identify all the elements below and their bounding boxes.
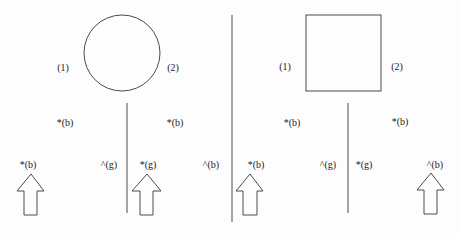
label-lower-left-a: *(b) [20,160,37,170]
label-lower-right-c: *(g) [356,160,373,170]
label-position-2-left: (2) [167,63,179,73]
label-lower-right-d: ^(b) [427,160,443,170]
label-lower-left-b: ^(g) [101,160,117,170]
diagram-canvas: (1) (2) *(b) *(b) *(b) ^(g) *(g) ^(b) (1… [0,0,461,234]
label-upper-right-a: *(b) [284,118,301,128]
square-shape [306,15,381,91]
label-upper-left-a: *(b) [57,118,74,128]
label-lower-left-d: ^(b) [203,160,219,170]
up-arrow-icon [17,174,44,215]
label-upper-left-b: *(b) [167,118,184,128]
label-upper-right-b: *(b) [392,117,409,127]
circle-shape [84,15,160,91]
label-position-1-left: (1) [57,63,69,73]
label-position-2-right: (2) [391,62,403,72]
label-position-1-right: (1) [279,62,291,72]
label-lower-left-c: *(g) [140,160,157,170]
label-lower-right-b: ^(g) [320,160,336,170]
label-lower-right-a: *(b) [248,160,265,170]
up-arrow-icon [417,173,444,214]
up-arrow-icon [132,174,161,215]
up-arrow-icon [236,174,263,215]
